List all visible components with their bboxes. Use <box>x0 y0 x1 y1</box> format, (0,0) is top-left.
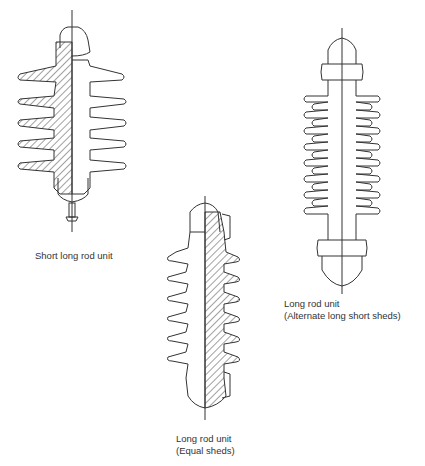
insulator-diagrams <box>0 0 425 466</box>
caption-line: Short long rod unit <box>35 250 113 262</box>
caption-line: Long rod unit <box>176 433 235 445</box>
caption-short-long-rod: Short long rod unit <box>35 250 113 262</box>
caption-long-rod-alternate: Long rod unit (Alternate long short shed… <box>284 298 401 322</box>
caption-line: (Alternate long short sheds) <box>284 310 401 322</box>
caption-long-rod-equal: Long rod unit (Equal sheds) <box>176 433 235 457</box>
long-rod-equal-sheds-drawing <box>168 196 240 420</box>
caption-line: (Equal sheds) <box>176 445 235 457</box>
caption-line: Long rod unit <box>284 298 401 310</box>
long-rod-alternate-sheds-drawing <box>304 28 380 294</box>
short-long-rod-unit-drawing <box>18 10 126 232</box>
